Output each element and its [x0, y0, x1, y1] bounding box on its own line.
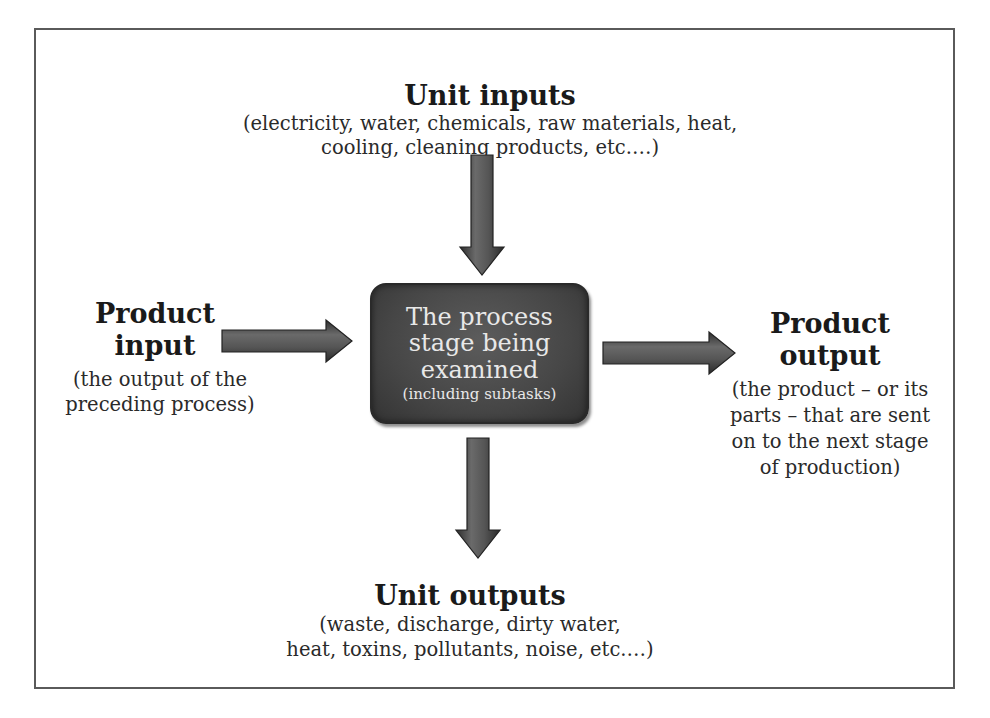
process-stage-line2: stage being	[409, 330, 551, 356]
product-output-title-line1: Product	[730, 308, 930, 340]
process-stage-subtext: (including subtasks)	[403, 385, 557, 403]
process-stage-line3: examined	[421, 357, 539, 383]
unit-outputs-title: Unit outputs	[260, 580, 680, 612]
product-input-desc-line2: preceding process)	[50, 393, 270, 416]
product-output-arrow-icon	[603, 330, 737, 376]
product-output-desc-line3: on to the next stage	[710, 430, 950, 453]
product-output-desc-line2: parts – that are sent	[710, 404, 950, 427]
product-output-title-line2: output	[730, 340, 930, 372]
product-input-arrow-icon	[222, 318, 354, 364]
unit-inputs-desc-line1: (electricity, water, chemicals, raw mate…	[180, 112, 800, 135]
process-stage-line1: The process	[406, 304, 553, 330]
unit-outputs-arrow-icon	[454, 438, 502, 560]
process-stage-box: The process stage being examined (includ…	[370, 283, 589, 424]
unit-inputs-arrow-icon	[458, 155, 506, 277]
unit-outputs-desc-line2: heat, toxins, pollutants, noise, etc.…)	[220, 638, 720, 661]
product-input-desc-line1: (the output of the	[50, 368, 270, 391]
unit-outputs-desc-line1: (waste, discharge, dirty water,	[220, 613, 720, 636]
product-output-desc-line1: (the product – or its	[710, 378, 950, 401]
unit-inputs-title: Unit inputs	[260, 80, 720, 112]
product-output-desc-line4: of production)	[710, 456, 950, 479]
